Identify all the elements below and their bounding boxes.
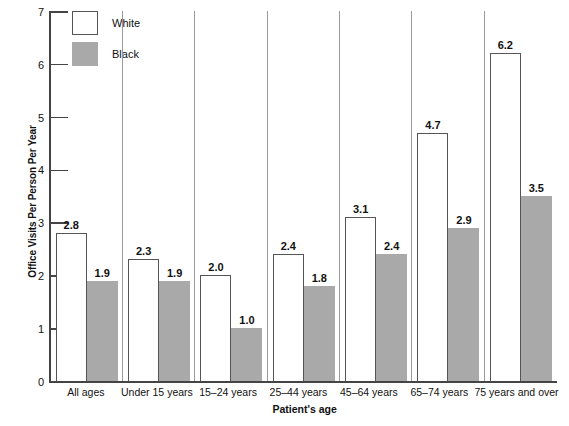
bar-chart: Office Visits Per Person Per Year 012345…: [0, 0, 569, 426]
bar-white: 2.0: [200, 275, 231, 381]
bar-value-label: 1.0: [239, 314, 254, 326]
x-axis-category-label: 65–74 years: [404, 386, 474, 398]
bar-group: 2.41.8: [268, 11, 340, 381]
bar-pair: 2.81.9: [51, 11, 123, 381]
x-axis-category-label: 75 years and over: [475, 386, 559, 398]
bar-group: 3.12.4: [340, 11, 412, 381]
bar-black: 1.9: [87, 281, 118, 381]
bar-white: 2.8: [56, 233, 87, 381]
y-axis-title: Office Visits Per Person Per Year: [27, 112, 38, 292]
bar-pair: 2.31.9: [123, 11, 195, 381]
bar-value-label: 2.8: [64, 219, 79, 231]
bar-value-label: 3.1: [353, 203, 368, 215]
x-axis-labels: All agesUnder 15 years15–24 years25–44 y…: [51, 386, 559, 398]
bar-group: 2.01.0: [195, 11, 267, 381]
bar-value-label: 2.4: [384, 240, 399, 252]
x-axis-category-label: Under 15 years: [121, 386, 193, 398]
y-tick-0: 0: [50, 381, 68, 383]
bar-group: 4.72.9: [412, 11, 484, 381]
bar-white: 2.4: [273, 254, 304, 381]
bar-value-label: 1.9: [95, 267, 110, 279]
bar-black: 1.0: [231, 328, 262, 381]
y-tick-label: 0: [38, 376, 44, 387]
y-tick-label: 5: [38, 112, 44, 123]
x-axis-category-label: All ages: [51, 386, 121, 398]
bar-value-label: 6.2: [498, 39, 513, 51]
bar-black: 1.9: [159, 281, 190, 381]
bar-group: 6.23.5: [485, 11, 557, 381]
bar-white: 3.1: [345, 217, 376, 381]
x-axis-category-label: 15–24 years: [193, 386, 263, 398]
bar-pair: 6.23.5: [485, 11, 557, 381]
bar-white: 6.2: [490, 53, 521, 381]
bar-groups: 2.81.92.31.92.01.02.41.83.12.44.72.96.23…: [51, 11, 557, 381]
x-axis-category-label: 25–44 years: [263, 386, 333, 398]
bar-white: 4.7: [417, 133, 448, 381]
bar-value-label: 1.8: [312, 272, 327, 284]
bar-pair: 3.12.4: [340, 11, 412, 381]
bar-value-label: 2.0: [208, 261, 223, 273]
bar-value-label: 2.4: [281, 240, 296, 252]
bar-value-label: 2.3: [136, 245, 151, 257]
bar-value-label: 3.5: [529, 182, 544, 194]
bar-group: 2.31.9: [123, 11, 195, 381]
bar-black: 3.5: [521, 196, 552, 381]
y-tick-label: 6: [38, 59, 44, 70]
bar-value-label: 2.9: [456, 214, 471, 226]
bar-value-label: 1.9: [167, 267, 182, 279]
x-axis-line: [49, 381, 557, 383]
x-axis-title: Patient's age: [51, 403, 559, 415]
bar-black: 2.4: [376, 254, 407, 381]
bar-pair: 2.41.8: [268, 11, 340, 381]
bar-pair: 4.72.9: [412, 11, 484, 381]
y-tick-label: 4: [38, 165, 44, 176]
bar-pair: 2.01.0: [195, 11, 267, 381]
y-tick-label: 1: [38, 323, 44, 334]
x-axis-category-label: 45–64 years: [334, 386, 404, 398]
bar-group: 2.81.9: [51, 11, 123, 381]
y-tick-label: 2: [38, 271, 44, 282]
bar-white: 2.3: [128, 259, 159, 381]
bar-value-label: 4.7: [425, 119, 440, 131]
plot-area: 01234567 White Black 2.81.92.31.92.01.02…: [49, 11, 557, 381]
bar-black: 2.9: [448, 228, 479, 381]
bar-black: 1.8: [304, 286, 335, 381]
y-tick-label: 3: [38, 218, 44, 229]
y-tick-label: 7: [38, 6, 44, 17]
